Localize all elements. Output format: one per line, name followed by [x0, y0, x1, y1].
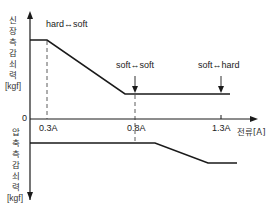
annotation-soft-soft: soft↔soft	[116, 60, 155, 70]
compression-damping-curve	[30, 143, 237, 163]
y-lower-char-1: 축	[12, 138, 20, 148]
y-lower-char-5: 력	[12, 182, 20, 192]
y-upper-char-5: 력	[9, 70, 17, 80]
y-lower-char-4: 쇠	[12, 171, 20, 181]
y-upper-char-4: 쇠	[9, 59, 17, 69]
y-upper-char-2: 측	[9, 37, 17, 47]
y-axis-down-arrow-icon	[27, 192, 33, 200]
y-axis-up-arrow-icon	[27, 11, 33, 19]
x-tick-label-0-3: 0.3A	[39, 123, 58, 133]
y-upper-char-0: 신	[9, 15, 17, 25]
x-axis-label: 전류[A]	[237, 127, 265, 137]
y-upper-char-3: 감	[9, 48, 17, 58]
y-lower-char-0: 압	[12, 127, 20, 137]
arrow-soft-soft-icon	[132, 86, 138, 93]
y-lower-unit: [kgf]	[7, 193, 23, 203]
x-axis-arrow-icon	[250, 116, 258, 122]
x-tick-label-1-3: 1.3A	[212, 123, 231, 133]
y-lower-char-3: 감	[12, 160, 20, 170]
arrow-soft-hard-icon	[218, 86, 224, 93]
origin-label: 0	[22, 113, 27, 123]
y-upper-char-1: 장	[9, 26, 17, 36]
annotation-soft-hard: soft↔hard	[198, 60, 240, 70]
x-tick-label-0-8: 0.8A	[127, 123, 146, 133]
damping-force-diagram: hard↔soft soft↔soft soft↔hard 0 0.3A 0.8…	[0, 0, 278, 209]
y-upper-unit: [kgf]	[5, 81, 21, 91]
annotation-hard-soft: hard↔soft	[46, 19, 88, 29]
y-lower-char-2: 측	[12, 149, 20, 159]
